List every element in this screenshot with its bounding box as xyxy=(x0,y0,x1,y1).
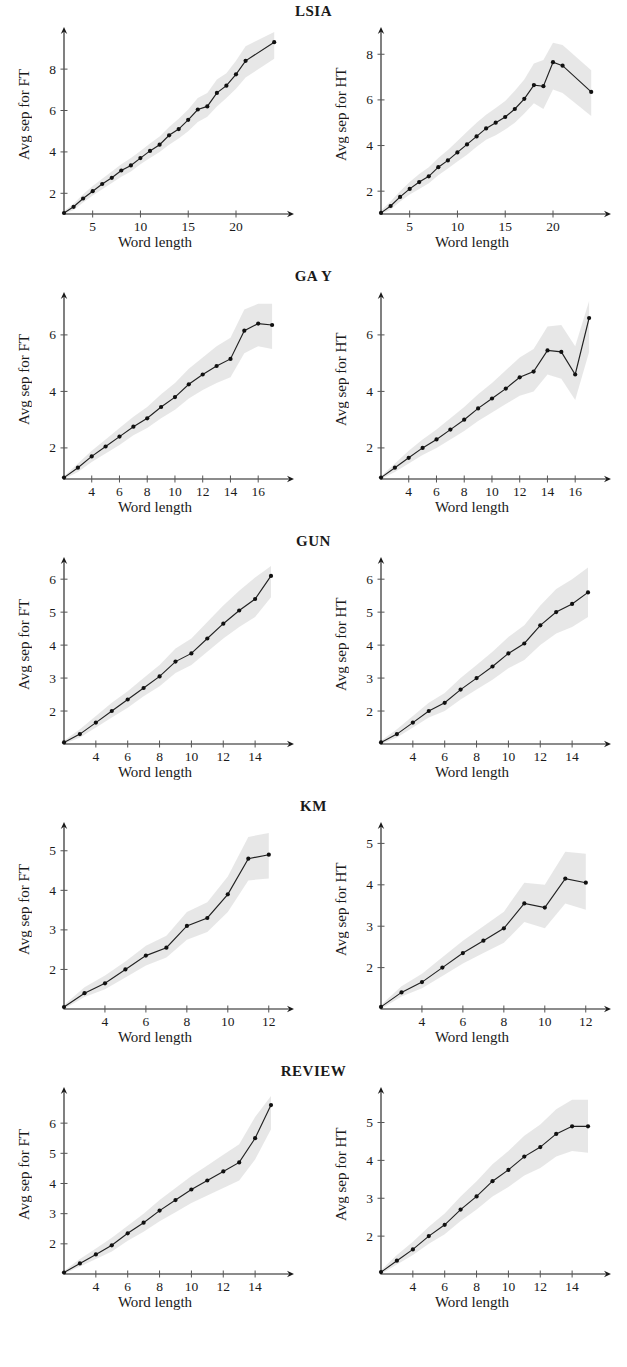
x-tick-label: 8 xyxy=(500,1014,507,1029)
y-tick-label: 4 xyxy=(49,883,56,898)
data-point xyxy=(522,1155,526,1159)
row-panels: Avg sep for FT 23456468101214 Word lengt… xyxy=(0,552,627,792)
data-point xyxy=(243,59,247,63)
x-tick-label: 10 xyxy=(168,484,182,499)
data-point xyxy=(426,174,430,178)
x-tick-label: 15 xyxy=(181,219,195,234)
data-point xyxy=(531,83,535,87)
data-point xyxy=(89,454,93,458)
data-point xyxy=(125,697,129,701)
row-panels: Avg sep for FT 23456468101214 Word lengt… xyxy=(0,1082,627,1322)
data-point xyxy=(410,721,414,725)
data-point xyxy=(436,165,440,169)
data-point xyxy=(157,674,161,678)
data-point xyxy=(455,150,459,154)
x-tick-label: 10 xyxy=(538,1014,552,1029)
data-point xyxy=(157,143,161,147)
plot-canvas: 23456468101214 xyxy=(34,556,297,764)
chart-row: LSIA Avg sep for FT 24685101520 Word len… xyxy=(0,0,627,265)
data-point xyxy=(82,991,86,995)
chart-svg: 24685101520 xyxy=(34,26,297,234)
y-tick-label: 5 xyxy=(366,605,373,620)
data-point xyxy=(77,1261,81,1265)
data-point xyxy=(388,204,392,208)
y-axis-label: Avg sep for HT xyxy=(331,817,351,1002)
data-point xyxy=(61,476,65,480)
data-point xyxy=(256,322,260,326)
x-tick-label: 4 xyxy=(92,749,99,764)
data-point xyxy=(123,967,127,971)
x-axis-label: Word length xyxy=(8,234,303,251)
chart-panel-ht: Avg sep for HT 24685101520 Word length xyxy=(325,22,620,262)
y-tick-label: 2 xyxy=(366,184,373,199)
chart-panel-ht: Avg sep for HT 2345468101214 Word length xyxy=(325,1082,620,1322)
data-point xyxy=(173,660,177,664)
x-tick-label: 14 xyxy=(223,484,237,499)
data-point xyxy=(538,1145,542,1149)
x-tick-label: 4 xyxy=(409,1279,416,1294)
x-axis-label: Word length xyxy=(8,1294,303,1311)
plot-canvas: 24685101520 xyxy=(351,26,614,234)
y-tick-label: 4 xyxy=(49,1176,56,1191)
data-point xyxy=(398,195,402,199)
y-axis-label: Avg sep for HT xyxy=(331,1082,351,1267)
data-point xyxy=(157,1209,161,1213)
data-point xyxy=(585,590,589,594)
chart-svg: 23454681012 xyxy=(34,821,297,1029)
data-point xyxy=(489,396,493,400)
data-point xyxy=(445,158,449,162)
data-point xyxy=(233,72,237,76)
data-point xyxy=(195,107,199,111)
data-point xyxy=(440,966,444,970)
data-point xyxy=(560,64,564,68)
data-point xyxy=(200,372,204,376)
data-point xyxy=(506,1168,510,1172)
data-point xyxy=(394,1259,398,1263)
data-point xyxy=(205,916,209,920)
data-point xyxy=(476,406,480,410)
y-tick-label: 3 xyxy=(49,922,56,937)
y-tick-label: 4 xyxy=(49,384,56,399)
data-point xyxy=(237,1160,241,1164)
data-point xyxy=(266,853,270,857)
data-point xyxy=(399,990,403,994)
y-tick-label: 6 xyxy=(366,327,373,342)
data-point xyxy=(189,1187,193,1191)
y-tick-label: 6 xyxy=(49,327,56,342)
data-point xyxy=(442,701,446,705)
x-tick-label: 10 xyxy=(501,1279,515,1294)
confidence-band xyxy=(64,833,269,1009)
row-title: REVIEW xyxy=(0,1060,627,1082)
chart-svg: 24685101520 xyxy=(351,26,614,234)
x-axis-label: Word length xyxy=(325,1029,620,1046)
x-tick-label: 12 xyxy=(216,1279,230,1294)
data-point xyxy=(221,1169,225,1173)
data-point xyxy=(503,115,507,119)
chart-panel-ft: Avg sep for FT 24685101520 Word length xyxy=(8,22,303,262)
x-tick-label: 4 xyxy=(405,484,412,499)
data-point xyxy=(100,182,104,186)
data-point xyxy=(420,446,424,450)
x-tick-label: 12 xyxy=(579,1014,593,1029)
chart-row: GUN Avg sep for FT 23456468101214 Word l… xyxy=(0,530,627,795)
data-point xyxy=(417,180,421,184)
data-point xyxy=(143,954,147,958)
data-point xyxy=(545,348,549,352)
data-point xyxy=(419,980,423,984)
y-tick-label: 6 xyxy=(49,1116,56,1131)
data-line xyxy=(64,1105,271,1272)
y-tick-label: 6 xyxy=(366,572,373,587)
row-panels: Avg sep for FT 23454681012 Word length A… xyxy=(0,817,627,1057)
data-point xyxy=(541,84,545,88)
y-tick-label: 5 xyxy=(49,1146,56,1161)
y-tick-label: 5 xyxy=(366,1115,373,1130)
x-tick-label: 6 xyxy=(124,1279,131,1294)
chart-row: KM Avg sep for FT 23454681012 Word lengt… xyxy=(0,795,627,1060)
plot-canvas: 2345468101214 xyxy=(351,1086,614,1294)
confidence-band xyxy=(64,304,272,479)
chart-svg: 23456468101214 xyxy=(351,556,614,764)
y-tick-label: 6 xyxy=(49,103,56,118)
chart-panel-ft: Avg sep for FT 24646810121416 Word lengt… xyxy=(8,287,303,527)
data-point xyxy=(426,1234,430,1238)
confidence-band xyxy=(64,1096,271,1274)
